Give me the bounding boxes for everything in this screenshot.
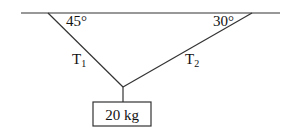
tension-diagram: 45° 30° T1 T2 20 kg [0, 0, 292, 135]
mass-label: 20 kg [105, 107, 139, 123]
tension-right-label: T2 [185, 51, 199, 69]
angle-right-label: 30° [213, 13, 234, 29]
tension-left-label: T1 [72, 51, 86, 69]
angle-left-label: 45° [66, 13, 87, 29]
